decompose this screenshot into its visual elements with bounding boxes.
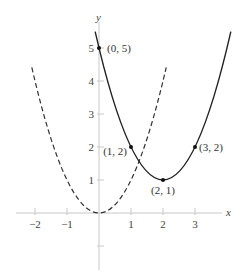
- data-point-marker: [161, 178, 165, 182]
- y-tick-label: 3: [89, 108, 95, 120]
- x-tick-label: −1: [61, 218, 73, 230]
- x-tick-label: 1: [128, 218, 134, 230]
- y-tick-label: 4: [89, 75, 95, 87]
- y-axis: 12345 y: [89, 11, 105, 270]
- x-axis-ticks: −2−1123: [29, 208, 198, 230]
- series-group: [32, 32, 231, 213]
- x-axis: −2−1123 x: [16, 206, 231, 230]
- chart: −2−1123 x 12345 y (0, 5)(1, 2)(2, 1)(3, …: [0, 0, 244, 275]
- x-tick-label: −2: [29, 218, 41, 230]
- data-point-label: (3, 2): [199, 141, 223, 154]
- data-point-label: (2, 1): [151, 184, 175, 197]
- y-tick-label: 2: [89, 141, 95, 153]
- data-point-label: (0, 5): [107, 42, 131, 55]
- y-axis-ticks: 12345: [89, 42, 105, 246]
- point-annotations: (0, 5)(1, 2)(2, 1)(3, 2): [97, 42, 223, 197]
- data-point-marker: [193, 145, 197, 149]
- y-axis-label: y: [95, 11, 101, 23]
- data-point-marker: [97, 46, 101, 50]
- y-tick-label: 1: [89, 174, 95, 186]
- y-tick-label: 5: [89, 42, 95, 54]
- x-tick-label: 2: [160, 218, 166, 230]
- x-axis-label: x: [225, 206, 231, 218]
- data-point-label: (1, 2): [103, 145, 127, 158]
- x-tick-label: 3: [192, 218, 198, 230]
- data-point-marker: [129, 145, 133, 149]
